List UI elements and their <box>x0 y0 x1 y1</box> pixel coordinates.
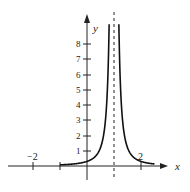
y-axis-arrow-icon <box>84 14 90 23</box>
svg-text:6: 6 <box>76 70 81 80</box>
svg-text:3: 3 <box>76 115 81 125</box>
x-tick-label-neg2: −2 <box>27 151 38 162</box>
svg-text:5: 5 <box>76 85 81 95</box>
curve-right-branch <box>119 24 155 164</box>
y-tick-labels: 1 2 3 4 5 6 7 8 <box>76 39 81 156</box>
curve-left-branch <box>60 24 109 165</box>
svg-text:4: 4 <box>76 100 81 110</box>
svg-text:8: 8 <box>76 39 81 49</box>
svg-text:1: 1 <box>76 146 81 156</box>
svg-text:7: 7 <box>76 54 81 64</box>
x-axis-label: x <box>174 160 180 172</box>
x-axis-arrow-icon <box>160 163 168 169</box>
function-graph: x y −2 2 1 2 3 4 5 6 7 8 <box>0 0 190 192</box>
y-axis-label: y <box>92 22 98 34</box>
svg-text:2: 2 <box>76 131 81 141</box>
